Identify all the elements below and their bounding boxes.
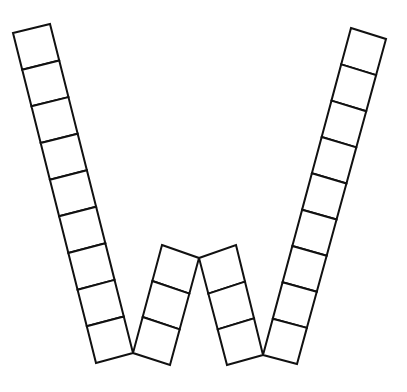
square-cell [263,319,307,364]
w-letter-diagram [0,0,407,392]
right-inner-strip [199,245,263,365]
left-inner-strip [133,245,199,365]
right-outer-strip [263,28,386,364]
left-outer-strip [13,24,133,363]
